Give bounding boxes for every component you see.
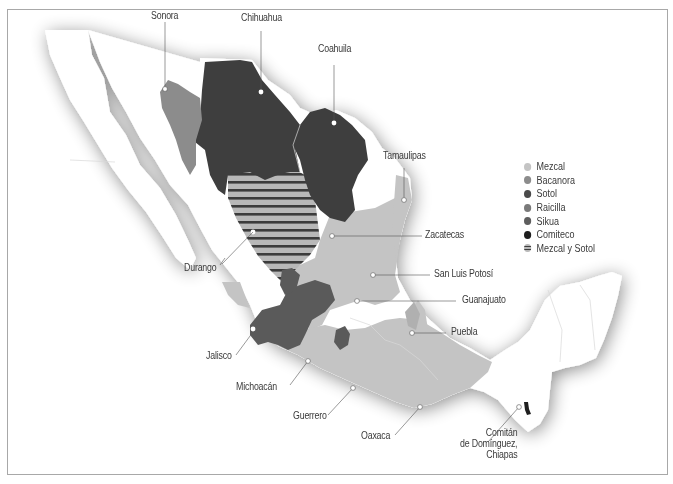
label-oaxaca: Oaxaca: [361, 430, 390, 441]
label-durango: Durango: [184, 262, 217, 273]
label-comitan: Comitán de Domínguez, Chiapas: [460, 427, 517, 460]
comiteco-swatch-icon: [524, 231, 531, 239]
legend-item-raicilla: Raicilla: [524, 201, 595, 215]
sotol-swatch-icon: [524, 190, 531, 198]
label-comitan-line2: de Domínguez,: [460, 438, 517, 449]
label-comitan-line1: Comitán: [460, 427, 517, 438]
label-jalisco: Jalisco: [206, 350, 232, 361]
legend-label: Mezcal: [537, 161, 566, 172]
mezcal-swatch-icon: [524, 163, 531, 171]
sikua-swatch-icon: [524, 217, 531, 225]
label-coahuila: Coahuila: [318, 43, 351, 54]
legend: Mezcal Bacanora Sotol Raicilla Sikua Com…: [524, 160, 603, 255]
label-san-luis-potosi: San Luis Potosí: [434, 268, 493, 279]
legend-label: Comiteco: [537, 229, 575, 240]
label-zacatecas: Zacatecas: [425, 229, 464, 240]
label-michoacan: Michoacán: [236, 381, 277, 392]
legend-label: Bacanora: [537, 175, 576, 186]
label-comitan-line3: Chiapas: [460, 449, 517, 460]
raicilla-swatch-icon: [524, 204, 531, 212]
label-guanajuato: Guanajuato: [462, 294, 506, 305]
mezcal-y-sotol-swatch-icon: [524, 244, 531, 252]
label-guerrero: Guerrero: [293, 410, 327, 421]
legend-label: Raicilla: [537, 202, 566, 213]
label-puebla: Puebla: [451, 326, 477, 337]
label-sonora: Sonora: [151, 10, 178, 21]
legend-label: Sotol: [537, 188, 558, 199]
legend-label: Sikua: [537, 216, 560, 227]
bacanora-swatch-icon: [524, 176, 531, 184]
label-chihuahua: Chihuahua: [241, 12, 282, 23]
legend-item-sikua: Sikua: [524, 214, 595, 228]
legend-item-sotol: Sotol: [524, 187, 595, 201]
label-tamaulipas: Tamaulipas: [383, 150, 426, 161]
legend-label: Mezcal y Sotol: [537, 243, 596, 254]
legend-item-mezcal: Mezcal: [524, 160, 595, 174]
legend-item-comiteco: Comiteco: [524, 228, 595, 242]
legend-item-mezcal-y-sotol: Mezcal y Sotol: [524, 242, 595, 256]
legend-item-bacanora: Bacanora: [524, 174, 595, 188]
